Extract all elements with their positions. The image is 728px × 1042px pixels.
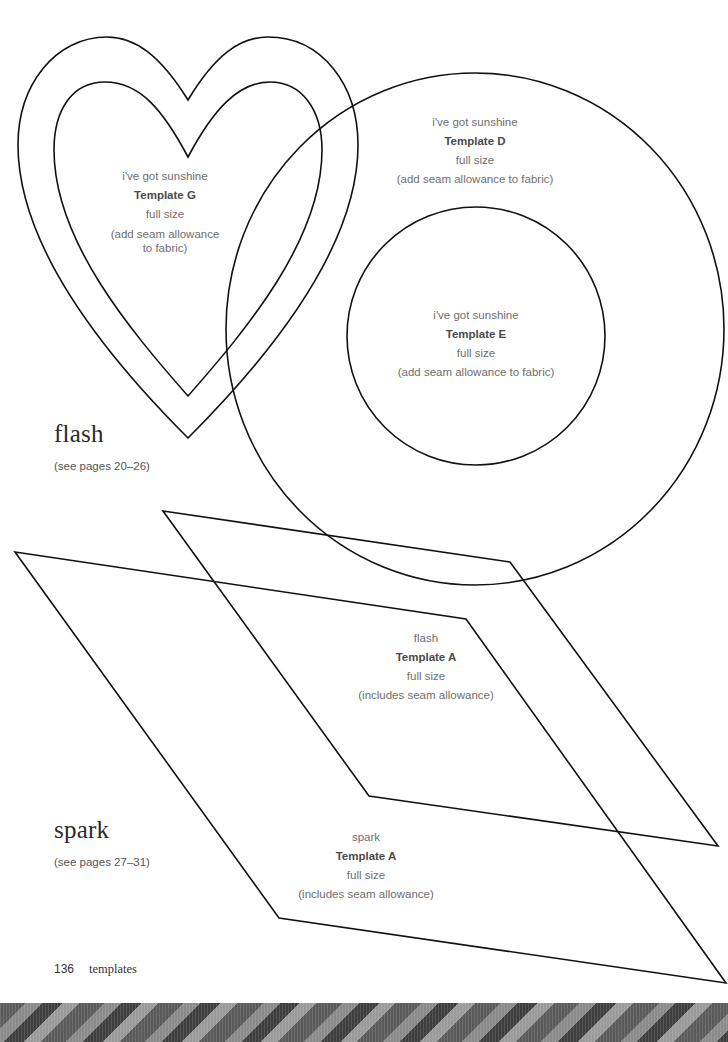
scan-edge-texture bbox=[0, 1003, 728, 1042]
template-g-note: (add seam allowance to fabric) bbox=[105, 227, 225, 255]
flash-template-a-note: (includes seam allowance) bbox=[358, 686, 494, 705]
template-e-note: (add seam allowance to fabric) bbox=[398, 363, 555, 382]
template-d-size: full size bbox=[397, 151, 554, 170]
spark-template-a-name: Template A bbox=[298, 847, 434, 866]
template-g-label: i've got sunshine Template G full size (… bbox=[105, 167, 225, 255]
flash-section-title: flash bbox=[54, 420, 104, 448]
template-e-label: i've got sunshine Template E full size (… bbox=[398, 306, 555, 382]
spark-template-a-project: spark bbox=[298, 828, 434, 847]
template-g-name: Template G bbox=[105, 186, 225, 205]
flash-template-a-size: full size bbox=[358, 667, 494, 686]
template-d-name: Template D bbox=[397, 132, 554, 151]
template-g-project: i've got sunshine bbox=[105, 167, 225, 186]
chapter-name: templates bbox=[89, 962, 137, 976]
flash-template-a-name: Template A bbox=[358, 648, 494, 667]
flash-section-pages: (see pages 20–26) bbox=[54, 460, 150, 472]
page-number: 136 bbox=[54, 962, 74, 976]
page-footer: 136 templates bbox=[54, 962, 137, 977]
spark-section-title: spark bbox=[54, 816, 109, 844]
template-d-label: i've got sunshine Template D full size (… bbox=[397, 113, 554, 189]
flash-template-a-project: flash bbox=[358, 629, 494, 648]
spark-section-pages: (see pages 27–31) bbox=[54, 856, 150, 868]
flash-template-a-label: flash Template A full size (includes sea… bbox=[358, 629, 494, 705]
template-e-name: Template E bbox=[398, 325, 555, 344]
template-g-size: full size bbox=[105, 205, 225, 224]
spark-template-a-size: full size bbox=[298, 866, 434, 885]
template-d-note: (add seam allowance to fabric) bbox=[397, 170, 554, 189]
template-page: i've got sunshine Template G full size (… bbox=[0, 0, 728, 1042]
template-e-project: i've got sunshine bbox=[398, 306, 555, 325]
template-d-project: i've got sunshine bbox=[397, 113, 554, 132]
spark-parallelogram-outline bbox=[15, 552, 726, 983]
spark-template-a-label: spark Template A full size (includes sea… bbox=[298, 828, 434, 904]
spark-template-a-note: (includes seam allowance) bbox=[298, 885, 434, 904]
template-e-size: full size bbox=[398, 344, 555, 363]
